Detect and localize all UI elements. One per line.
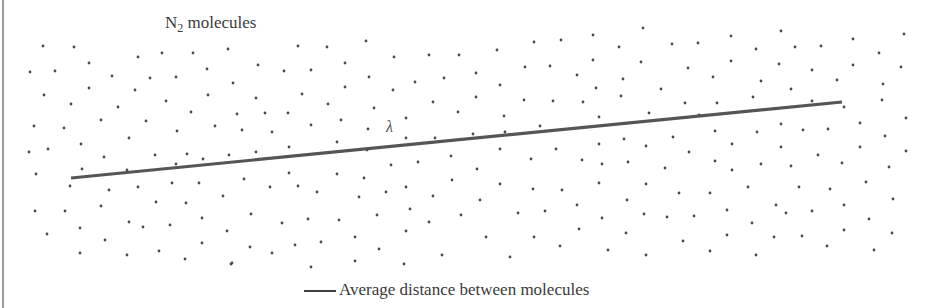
molecule-dot xyxy=(301,93,304,96)
molecule-dot xyxy=(354,260,357,263)
molecule-dot xyxy=(428,221,431,224)
molecule-dot xyxy=(206,68,209,71)
molecule-dot xyxy=(428,54,431,57)
molecule-dot xyxy=(378,248,381,251)
molecule-dot xyxy=(523,99,526,102)
molecule-dot xyxy=(227,48,230,51)
molecule-dot xyxy=(891,232,894,235)
molecule-dot xyxy=(310,69,313,72)
molecule-dot xyxy=(780,146,783,149)
molecule-dot xyxy=(626,199,629,202)
molecule-dot xyxy=(755,48,758,51)
molecule-dot xyxy=(716,102,719,105)
molecule-dot xyxy=(310,266,313,269)
molecule-dot xyxy=(222,195,225,198)
molecule-dot xyxy=(43,94,46,97)
molecule-dot xyxy=(70,103,73,106)
molecule-dot xyxy=(684,102,687,105)
molecule-dot xyxy=(578,228,581,231)
molecule-dot xyxy=(660,88,663,91)
molecule-dot xyxy=(158,250,161,253)
molecule-dot xyxy=(165,100,168,103)
molecule-dot xyxy=(149,77,152,80)
molecule-dot xyxy=(202,158,205,161)
molecule-dot xyxy=(255,97,258,100)
molecule-dot xyxy=(336,141,339,144)
molecule-dot xyxy=(271,252,274,255)
molecules-label-suffix: molecules xyxy=(183,13,256,32)
molecule-dot xyxy=(34,210,37,213)
molecule-dot xyxy=(868,218,871,221)
n2-mean-free-path-diagram: N2 molecules λ Average distance between … xyxy=(0,0,950,308)
molecule-dot xyxy=(33,125,36,128)
molecule-dot xyxy=(176,130,179,133)
molecule-dot xyxy=(598,143,601,146)
molecule-dot xyxy=(434,137,437,140)
molecule-dot xyxy=(532,188,535,191)
molecule-dot xyxy=(625,232,628,235)
molecule-dot xyxy=(693,215,696,218)
molecule-dot xyxy=(475,96,478,99)
molecule-dot xyxy=(836,79,839,82)
molecule-dot xyxy=(503,115,506,118)
molecule-dot xyxy=(393,56,396,59)
molecule-dot xyxy=(80,143,83,146)
molecule-dot xyxy=(592,59,595,62)
molecule-dot xyxy=(509,256,512,259)
molecule-dot xyxy=(42,45,45,48)
molecule-dot xyxy=(794,46,797,49)
molecule-dot xyxy=(344,62,347,65)
molecule-dot xyxy=(226,230,229,233)
molecule-dot xyxy=(128,221,131,224)
molecule-dot xyxy=(504,131,507,134)
molecule-dot xyxy=(475,72,478,75)
molecule-dot xyxy=(460,214,463,217)
molecule-dot xyxy=(645,183,648,186)
molecule-dot xyxy=(843,204,846,207)
molecule-dot xyxy=(231,262,234,265)
molecule-dot xyxy=(798,186,801,189)
molecule-dot xyxy=(128,137,131,140)
molecule-dot xyxy=(88,87,91,90)
molecule-dot xyxy=(544,210,547,213)
molecule-dot xyxy=(598,182,601,185)
molecule-dot xyxy=(297,185,300,188)
molecule-dot xyxy=(756,131,759,134)
molecule-dot xyxy=(376,214,379,217)
molecule-dot xyxy=(607,249,610,252)
molecule-dot xyxy=(281,222,284,225)
molecule-dot xyxy=(841,162,844,165)
molecule-dot xyxy=(190,111,193,114)
molecule-dot xyxy=(479,199,482,202)
molecule-dot xyxy=(549,65,552,68)
molecule-dot xyxy=(54,70,57,73)
molecule-dot xyxy=(622,78,625,81)
molecule-dot xyxy=(288,146,291,149)
molecule-dot xyxy=(363,177,366,180)
molecule-dot xyxy=(843,229,846,232)
molecule-dot xyxy=(214,125,217,128)
molecule-dot xyxy=(117,106,120,109)
molecule-dot xyxy=(682,240,685,243)
molecule-dot xyxy=(881,99,884,102)
molecule-dot xyxy=(873,249,876,252)
molecule-dot xyxy=(373,107,376,110)
molecule-dot xyxy=(232,82,235,85)
molecule-dot xyxy=(403,263,406,266)
lambda-symbol-label: λ xyxy=(386,118,393,136)
molecule-dot xyxy=(476,168,479,171)
molecule-dot xyxy=(785,212,788,215)
molecule-dot xyxy=(726,209,729,212)
molecule-dot xyxy=(642,27,645,30)
molecule-dot xyxy=(451,179,454,182)
molecule-dot xyxy=(755,254,758,257)
molecule-dot xyxy=(88,62,91,65)
molecule-dot xyxy=(892,198,895,201)
molecule-dot xyxy=(142,226,145,229)
molecule-dot xyxy=(297,45,300,48)
molecule-dot xyxy=(751,222,754,225)
molecule-dot xyxy=(271,131,274,134)
molecule-dot xyxy=(712,76,715,79)
mean-free-path-line xyxy=(71,102,842,178)
molecule-dot xyxy=(310,124,313,127)
